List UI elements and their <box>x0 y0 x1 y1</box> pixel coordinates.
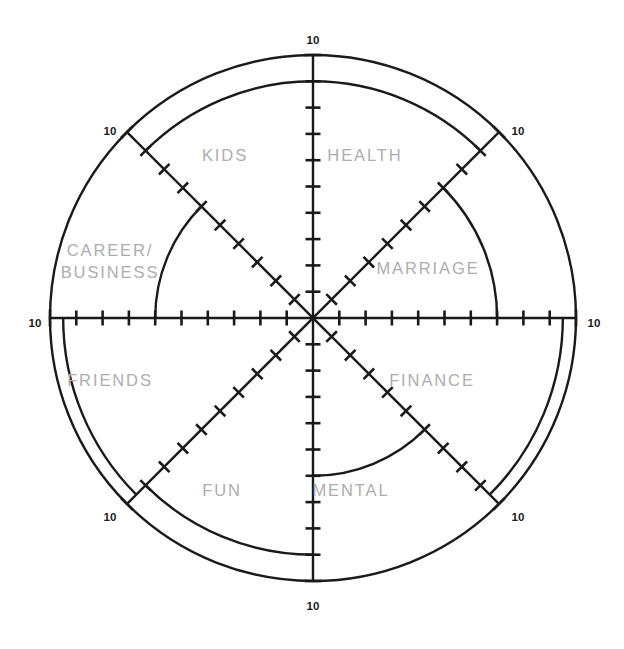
scale-label-upper-left: 10 <box>104 125 117 137</box>
scale-label-upper-right: 10 <box>512 125 525 137</box>
wheel-of-life-svg: 1010101010101010 HEALTHMARRIAGEFINANCEME… <box>0 0 624 649</box>
sector-label-line: CAREER/ <box>67 241 154 259</box>
sector-label-line: MARRIAGE <box>376 259 479 277</box>
sector-label-line: HEALTH <box>327 146 402 164</box>
sector-labels: HEALTHMARRIAGEFINANCEMENTALFUNFRIENDSCAR… <box>61 146 480 499</box>
sector-label-line: KIDS <box>202 146 248 164</box>
sector-label-line: FRIENDS <box>67 371 153 389</box>
axis-scale-labels: 1010101010101010 <box>29 34 601 612</box>
sector-label-fun: FUN <box>202 481 242 499</box>
score-arc-career <box>155 206 201 318</box>
sector-label-line: BUSINESS <box>61 263 160 281</box>
scale-label-lower-right: 10 <box>512 511 525 523</box>
score-arc-finance <box>490 318 563 495</box>
sector-label-marriage: MARRIAGE <box>376 259 479 277</box>
sector-label-health: HEALTH <box>327 146 402 164</box>
sector-label-mental: MENTAL <box>312 481 389 499</box>
sector-label-finance: FINANCE <box>389 371 475 389</box>
scale-label-lower-left: 10 <box>104 511 117 523</box>
wheel-of-life-chart: 1010101010101010 HEALTHMARRIAGEFINANCEME… <box>0 0 624 649</box>
score-arc-marriage <box>443 188 497 318</box>
score-arc-mental <box>313 430 425 476</box>
sector-label-line: FINANCE <box>389 371 475 389</box>
score-arc-kids <box>146 81 313 150</box>
sector-label-career: CAREER/BUSINESS <box>61 241 160 281</box>
scale-label-right: 10 <box>588 317 601 329</box>
sector-label-line: MENTAL <box>312 481 389 499</box>
score-arc-friends <box>63 318 136 495</box>
score-arc-health <box>313 81 480 150</box>
sector-label-kids: KIDS <box>202 146 248 164</box>
scale-label-bottom: 10 <box>307 600 320 612</box>
scale-label-top: 10 <box>307 34 320 46</box>
sector-label-line: FUN <box>202 481 242 499</box>
sector-label-friends: FRIENDS <box>67 371 153 389</box>
scale-label-left: 10 <box>29 317 42 329</box>
